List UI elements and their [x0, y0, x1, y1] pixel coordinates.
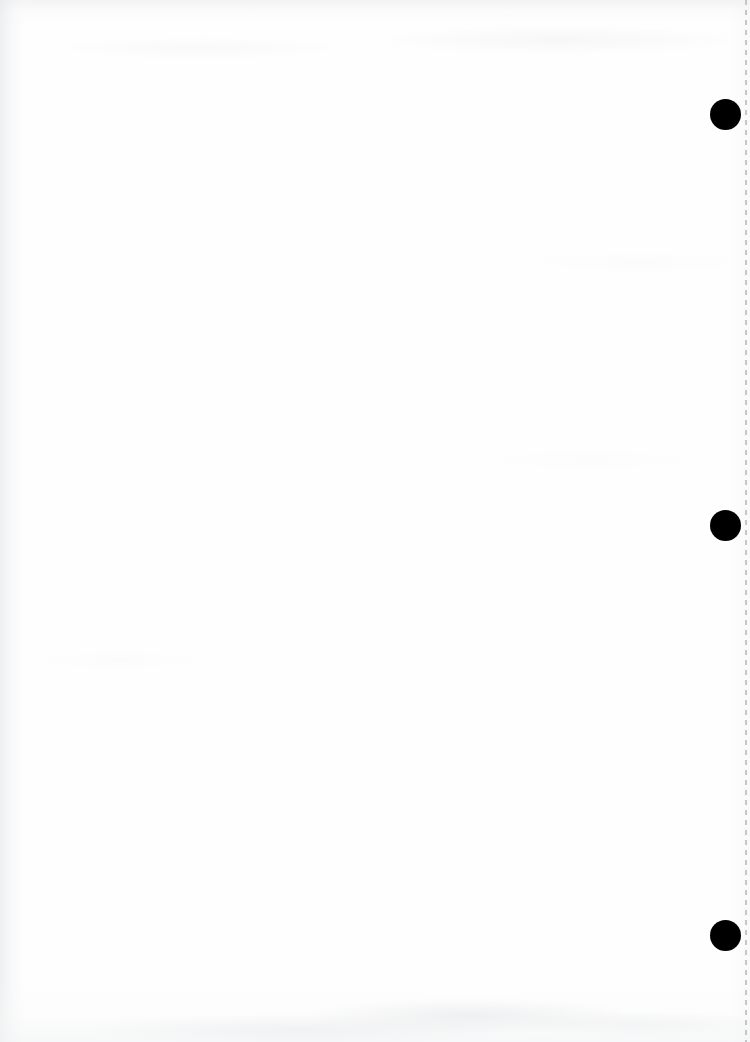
- punch-hole-mark: [710, 920, 741, 951]
- scanned-page: [0, 0, 750, 1042]
- page-content-area: [34, 26, 680, 1002]
- punch-hole-mark: [710, 510, 741, 541]
- punch-hole-mark: [710, 99, 741, 130]
